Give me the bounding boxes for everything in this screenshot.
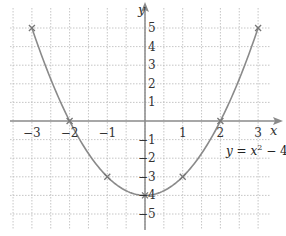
equation-lhs: y = x [225, 144, 257, 158]
y-tick-label: 2 [148, 77, 156, 91]
x-tick-label: −3 [23, 126, 41, 140]
x-tick-label: 3 [254, 126, 262, 140]
equation-label: y = x2 − 4 [225, 143, 286, 158]
y-tick-label: −2 [138, 151, 156, 165]
y-tick-label: 3 [148, 58, 156, 72]
x-tick-label: 1 [179, 126, 187, 140]
x-axis-label: x [270, 123, 278, 138]
y-axis-label: y [137, 2, 146, 17]
parabola-chart: −3−2−112354321−1−2−3−4−5 x y y = x2 − 4 [0, 0, 286, 236]
y-tick-label: −5 [138, 207, 156, 221]
y-tick-label: 1 [148, 95, 156, 109]
y-tick-label: −1 [138, 133, 156, 147]
x-tick-label: 2 [217, 126, 225, 140]
x-tick-label: −1 [98, 126, 116, 140]
y-tick-label: −3 [138, 170, 156, 184]
equation-rhs: − 4 [262, 144, 286, 158]
y-tick-label: 5 [148, 21, 156, 35]
x-tick-label: −2 [61, 126, 79, 140]
y-tick-label: −4 [138, 188, 156, 202]
y-tick-label: 4 [148, 40, 156, 54]
